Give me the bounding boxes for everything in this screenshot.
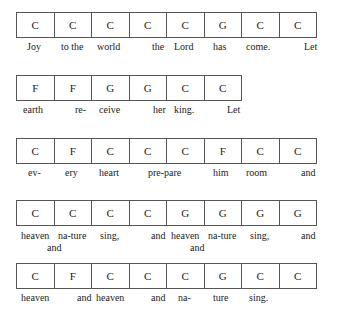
chord-box: C [167, 76, 205, 100]
chord-bars: CCCCCGCC [16, 12, 317, 38]
lyric-word: and [301, 167, 315, 178]
chord-box: C [242, 13, 280, 37]
lyric-word: the [152, 41, 164, 52]
chord-box: F [55, 264, 93, 288]
lyric-word: king. [174, 104, 194, 115]
lyric-word: earth [23, 104, 43, 115]
chord-bars: CFCCCGCC [16, 263, 317, 289]
lyric-word: come. [246, 41, 270, 52]
chord-row: CFCCCFCC [16, 138, 317, 164]
lyric-word: and [190, 242, 204, 253]
lyric-word: heaven [96, 292, 124, 303]
chord-row: CCCCCGCC [16, 12, 317, 38]
chord-box: F [55, 76, 93, 100]
lyric-word: sing, [100, 230, 119, 241]
chord-box: C [17, 13, 55, 37]
chord-bars: CFCCCFCC [16, 138, 317, 164]
chord-box: C [55, 13, 93, 37]
lyric-word: and [77, 292, 91, 303]
chord-box: G [242, 201, 280, 225]
chord-box: F [17, 76, 55, 100]
chord-box: C [17, 264, 55, 288]
lyric-word: ture [213, 292, 229, 303]
lyric-word: sing. [249, 292, 268, 303]
lyric-word: pre-pare [148, 167, 181, 178]
chord-box: C [92, 264, 130, 288]
chord-box: C [92, 139, 130, 163]
chord-box: C [242, 264, 280, 288]
lyric-word: has [213, 41, 226, 52]
lyric-word: Let [304, 41, 317, 52]
chord-box: G [167, 201, 205, 225]
lyric-word: ev- [28, 167, 41, 178]
lyric-word: heaven [171, 230, 199, 241]
lyric-word: Let [227, 104, 240, 115]
chord-box: G [205, 201, 243, 225]
lyric-word: him [213, 167, 229, 178]
lyric-word: and [47, 242, 61, 253]
chord-box: C [205, 76, 243, 100]
chord-box: C [167, 264, 205, 288]
chord-bars: CCCCGGGG [16, 200, 317, 226]
lyric-word: and [151, 292, 165, 303]
chord-box: G [280, 201, 318, 225]
chord-box: C [55, 201, 93, 225]
lyric-word: to the [61, 41, 84, 52]
lyric-word: na-ture [208, 230, 236, 241]
chord-box: C [280, 264, 318, 288]
lyric-word: ery [65, 167, 78, 178]
chord-bars: FFGGCC [16, 75, 242, 101]
chord-box: C [130, 264, 168, 288]
chord-box: C [92, 13, 130, 37]
chord-box: C [130, 201, 168, 225]
chord-box: C [92, 201, 130, 225]
lyric-word: na- [178, 292, 191, 303]
chord-box: C [17, 201, 55, 225]
lyric-word: sing, [250, 230, 269, 241]
lyric-word: and [301, 230, 315, 241]
chord-box: C [17, 139, 55, 163]
chord-box: C [130, 13, 168, 37]
lyric-word: na-ture [58, 230, 86, 241]
chord-row: CFCCCGCC [16, 263, 317, 289]
chord-box: G [205, 264, 243, 288]
chord-box: G [130, 76, 168, 100]
chord-box: C [167, 13, 205, 37]
lyric-word: heaven [21, 230, 49, 241]
chord-box: F [205, 139, 243, 163]
chord-box: F [55, 139, 93, 163]
lyric-word: heart [99, 167, 119, 178]
lyric-word: heaven [21, 292, 49, 303]
lyric-word: room [246, 167, 267, 178]
chord-box: C [242, 139, 280, 163]
chord-box: G [92, 76, 130, 100]
lyric-word: and [151, 230, 165, 241]
lyric-word: ceive [99, 104, 120, 115]
chord-box: G [205, 13, 243, 37]
lyric-word: world [97, 41, 120, 52]
chord-row: FFGGCC [16, 75, 242, 101]
lyric-word: Joy [27, 41, 41, 52]
lyric-word: her [153, 104, 166, 115]
chord-box: C [280, 139, 318, 163]
chord-box: C [280, 13, 318, 37]
chord-box: C [130, 139, 168, 163]
chord-row: CCCCGGGG [16, 200, 317, 226]
chord-box: C [167, 139, 205, 163]
lyric-word: re- [75, 104, 86, 115]
lyric-word: Lord [174, 41, 193, 52]
